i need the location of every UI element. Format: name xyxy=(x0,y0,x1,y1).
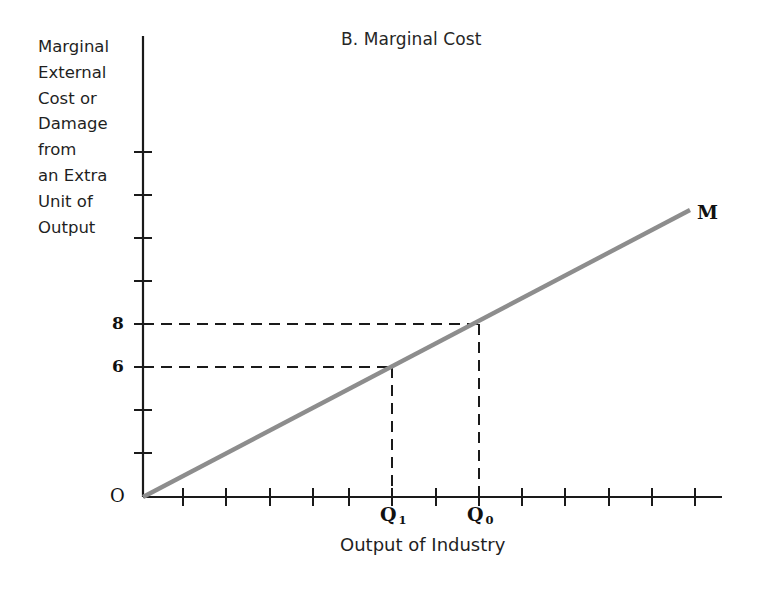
x-tick-label-q0: Q0 xyxy=(467,505,494,524)
y-axis-label-line-3: Cost or xyxy=(38,86,133,112)
y-axis-label-line-7: Unit of xyxy=(38,189,133,215)
y-axis-label-line-5: from xyxy=(38,137,133,163)
y-axis-label: Marginal External Cost or Damage from an… xyxy=(38,34,133,240)
marginal-cost-curve xyxy=(143,210,690,497)
curve-label-m: M xyxy=(697,203,718,222)
y-tick-label-6: 6 xyxy=(112,358,124,375)
y-axis-label-line-8: Output xyxy=(38,215,133,241)
y-axis-label-line-4: Damage xyxy=(38,111,133,137)
y-axis-label-line-6: an Extra xyxy=(38,163,133,189)
x-tick-label-q1: Q1 xyxy=(380,505,407,524)
x-axis-label: Output of Industry xyxy=(340,536,505,554)
origin-label: O xyxy=(110,487,125,505)
x-tick-label-q0-base: Q xyxy=(467,503,484,525)
y-tick-label-8: 8 xyxy=(112,315,124,332)
x-tick-label-q1-subscript: 1 xyxy=(397,513,407,527)
y-axis-label-line-2: External xyxy=(38,60,133,86)
y-axis-label-line-1: Marginal xyxy=(38,34,133,60)
chart-title: B. Marginal Cost xyxy=(341,31,481,48)
x-tick-label-q0-subscript: 0 xyxy=(484,513,494,527)
chart-figure: B. Marginal Cost Marginal External Cost … xyxy=(0,0,764,589)
x-tick-label-q1-base: Q xyxy=(380,503,397,525)
